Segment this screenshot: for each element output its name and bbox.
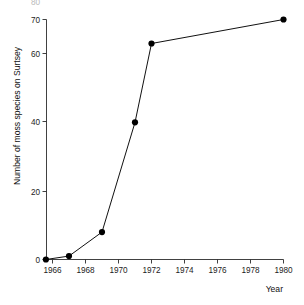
x-axis-title: Year	[266, 284, 284, 294]
data-point	[43, 256, 49, 262]
y-tick-label-40: 40	[31, 118, 41, 127]
y-tick-label-20: 20	[31, 188, 41, 197]
clipped-top-tick-label: 80	[31, 0, 41, 7]
chart-canvas: 80 70 60 40 20 0 Number of moss species …	[0, 0, 304, 305]
x-tick-label-1978: 1978	[241, 266, 260, 275]
y-tick-label-70: 70	[31, 16, 41, 25]
y-axis-title: Number of moss species on Surtsey	[12, 46, 22, 185]
x-tick-label-1976: 1976	[208, 266, 227, 275]
moss-species-line-chart: 80 70 60 40 20 0 Number of moss species …	[0, 0, 304, 305]
data-point	[280, 16, 286, 22]
x-tick-label-1970: 1970	[109, 266, 128, 275]
series-line-path	[46, 20, 284, 260]
x-tick-label-1980: 1980	[274, 266, 293, 275]
x-axis: 1966 1968 1970 1972 1974 1976 1978 1980 …	[43, 260, 293, 295]
y-tick-label-0: 0	[35, 256, 40, 265]
data-point	[99, 229, 105, 235]
series-markers	[43, 16, 287, 262]
x-tick-label-1972: 1972	[142, 266, 161, 275]
data-point	[148, 40, 154, 46]
x-tick-label-1974: 1974	[175, 266, 194, 275]
x-tick-label-1966: 1966	[43, 266, 62, 275]
data-point	[66, 253, 72, 259]
data-point	[132, 119, 138, 125]
y-tick-label-60: 60	[31, 50, 41, 59]
data-series-moss-species	[43, 16, 287, 262]
x-tick-label-1968: 1968	[76, 266, 95, 275]
y-axis: 70 60 40 20 0 Number of moss species on …	[12, 16, 47, 265]
